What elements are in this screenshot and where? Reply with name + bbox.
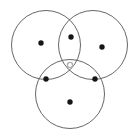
point-lower-right [92,76,97,81]
venn-diagram-canvas [0,0,139,140]
point-left [38,40,43,45]
point-lower-left [43,76,48,81]
point-top-center [68,34,73,39]
point-bottom-center [67,99,72,104]
point-right [99,44,104,49]
venn-diagram-svg [0,0,139,140]
